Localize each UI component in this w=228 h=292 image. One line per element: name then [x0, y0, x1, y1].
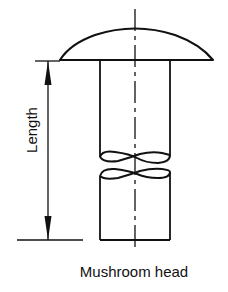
- rivet-diagram: Length: [0, 0, 228, 292]
- arrow-up-icon: [45, 61, 52, 85]
- arrow-down-icon: [45, 216, 52, 240]
- diagram-caption: Mushroom head: [0, 263, 228, 280]
- length-label: Length: [23, 107, 40, 153]
- length-dimension: [45, 61, 52, 240]
- mushroom-head: [60, 29, 213, 61]
